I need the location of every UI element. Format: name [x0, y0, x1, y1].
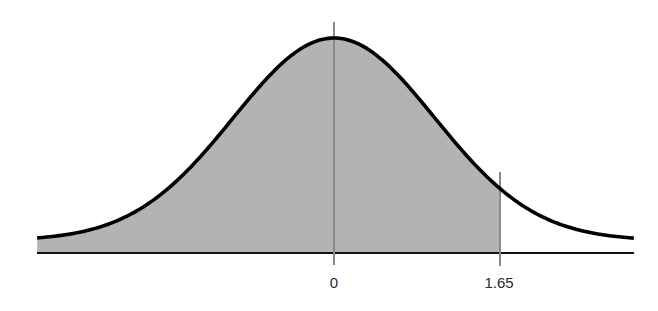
shaded-area-under-curve — [37, 38, 500, 252]
tick-label-critical-value: 1.65 — [484, 274, 513, 291]
tick-label-zero: 0 — [330, 274, 338, 291]
normal-distribution-chart: 0 1.65 — [0, 0, 658, 311]
